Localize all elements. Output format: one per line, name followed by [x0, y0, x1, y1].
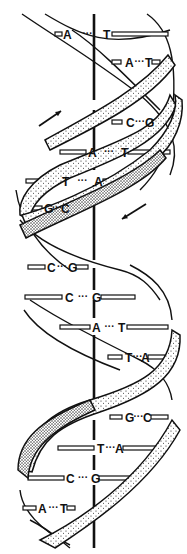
base-right: T — [103, 28, 111, 42]
base-left: C — [66, 472, 75, 486]
base-pair: A···T — [92, 321, 126, 335]
base-pair-bar-right — [148, 355, 165, 359]
base-pair: T···A — [97, 442, 124, 456]
base-pair: C···G — [65, 291, 101, 305]
base-right: G — [145, 116, 154, 130]
hydrogen-bond-dots: ··· — [134, 411, 144, 422]
base-pair-bar-left — [112, 120, 122, 124]
base-pair-bar-left — [28, 265, 45, 269]
base-left: A — [63, 28, 72, 42]
base-pair-bar-right — [101, 295, 135, 299]
base-left: A — [88, 146, 97, 160]
base-left: C — [126, 116, 135, 130]
base-right: G — [92, 291, 101, 305]
base-pair: T···A — [62, 175, 103, 189]
dna-double-helix-diagram: A···TA···TC···GA···TT···AG···CC···GC···G… — [0, 0, 187, 554]
base-pair-bar-right — [127, 325, 168, 329]
base-pair-bar-left — [60, 150, 86, 154]
hydrogen-bond-dots: ··· — [49, 502, 59, 513]
base-right: A — [141, 351, 150, 365]
hydrogen-bond-dots: ··· — [78, 472, 88, 483]
hydrogen-bond-dots: ··· — [106, 442, 116, 453]
base-pair: T···A — [125, 351, 150, 365]
base-right: G — [68, 261, 77, 275]
hydrogen-bond-dots: ··· — [104, 146, 114, 157]
hydrogen-bond-dots: ··· — [78, 291, 88, 302]
base-left: C — [65, 291, 74, 305]
hydrogen-bond-dots: ··· — [105, 321, 115, 332]
base-right: C — [61, 202, 70, 216]
base-left: T — [97, 442, 105, 456]
base-left: T — [62, 175, 70, 189]
base-right: T — [118, 321, 126, 335]
base-pair-bar-left — [55, 32, 62, 36]
helix-canvas: A···TA···TC···GA···TT···AG···CC···GC···G… — [0, 0, 187, 554]
base-pair-bar-right — [151, 415, 168, 419]
hydrogen-bond-dots: ··· — [83, 28, 93, 39]
base-pair: C···G — [47, 261, 77, 275]
base-pair: A···T — [125, 56, 153, 70]
base-pair: A···T — [38, 502, 68, 516]
base-pair-bar-right — [152, 60, 160, 64]
base-right: G — [91, 472, 100, 486]
base-pair-bar-left — [25, 295, 62, 299]
base-right: T — [145, 56, 153, 70]
base-right: T — [60, 502, 68, 516]
base-right: T — [121, 146, 129, 160]
hydrogen-bond-dots: ··· — [78, 175, 88, 186]
base-pair-bar-left — [60, 325, 90, 329]
base-pair-bar-left — [110, 415, 122, 419]
hydrogen-bond-dots: ··· — [57, 261, 67, 272]
base-pair-bar-left — [58, 446, 94, 450]
base-left: A — [125, 56, 134, 70]
base-pair: A···T — [63, 28, 111, 42]
hydrogen-bond-dots: ··· — [135, 56, 145, 67]
base-pair-bar-right — [76, 265, 88, 269]
base-right: A — [94, 175, 103, 189]
base-pair-bar-right — [112, 32, 168, 36]
base-pair: C···G — [66, 472, 100, 486]
base-pair: C···G — [126, 116, 154, 130]
base-pair-bar-left — [112, 60, 121, 64]
base-left: A — [92, 321, 101, 335]
base-pair: G···C — [125, 411, 152, 425]
base-right: A — [115, 442, 124, 456]
base-left: A — [38, 502, 47, 516]
hydrogen-bond-dots: ··· — [135, 116, 145, 127]
base-right: C — [143, 411, 152, 425]
base-pair-bar-left — [23, 506, 36, 510]
base-pair-bar-left — [28, 476, 64, 480]
base-pair-bar-right — [67, 506, 75, 510]
base-left: C — [47, 261, 56, 275]
base-pair-bar-left — [108, 355, 122, 359]
